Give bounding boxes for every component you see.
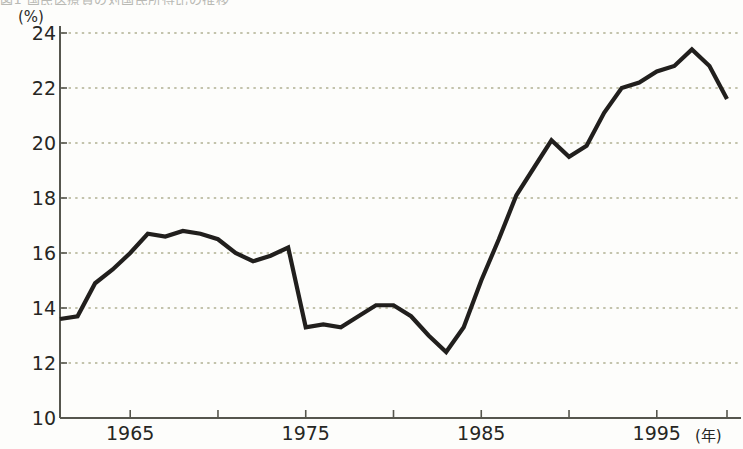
y-axis-label-22: 22 [22,77,56,99]
data-series-line [60,50,727,353]
chart-page: 図1 国民医療費の対国民所得比の推移 (%) 2422201816141210 … [0,0,743,449]
x-axis-label-1975: 1975 [282,422,330,444]
y-axis-label-16: 16 [22,242,56,264]
y-axis-label-18: 18 [22,187,56,209]
y-axis-label-20: 20 [22,132,56,154]
y-axis-label-14: 14 [22,297,56,319]
x-axis-label-1965: 1965 [106,422,154,444]
y-axis-label-12: 12 [22,352,56,374]
x-axis-label-1995: 1995 [633,422,681,444]
y-axis-label-10: 10 [22,407,56,429]
line-chart-plot [0,0,743,449]
x-axis-unit-label: (年) [695,424,722,445]
x-axis-ticks-group [60,33,727,418]
y-axis-label-24: 24 [22,22,56,44]
x-axis-label-1985: 1985 [457,422,505,444]
